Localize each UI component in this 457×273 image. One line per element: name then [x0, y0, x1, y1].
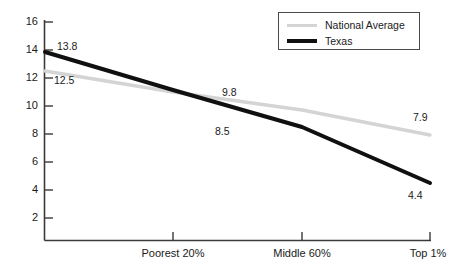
y-tick-label-2: 2: [12, 212, 38, 223]
x-tick-label-top-1: Top 1%: [410, 248, 447, 259]
legend-item-national-average: National Average: [287, 18, 405, 32]
data-label-national-end: 7.9: [413, 112, 428, 123]
data-label-national-start: 12.5: [54, 75, 74, 86]
y-tick-label-12: 12: [12, 72, 38, 83]
series-line-national-average: [45, 71, 430, 135]
legend-label-national-average: National Average: [325, 20, 405, 31]
data-label-texas-end: 4.4: [408, 190, 423, 201]
data-label-texas-start: 13.8: [57, 41, 77, 52]
y-tick-label-8: 8: [12, 128, 38, 139]
y-tick-label-10: 10: [12, 100, 38, 111]
legend-label-texas: Texas: [325, 36, 352, 47]
legend-swatch-national-average-icon: [287, 24, 317, 27]
y-tick-label-4: 4: [12, 184, 38, 195]
data-label-texas-mid: 8.5: [215, 126, 230, 137]
legend-swatch-texas-icon: [287, 39, 317, 43]
y-tick-label-14: 14: [12, 44, 38, 55]
legend-item-texas: Texas: [287, 34, 352, 48]
x-tick-label-poorest-20: Poorest 20%: [142, 248, 205, 259]
series-line-texas: [45, 52, 430, 183]
line-chart: 16 14 12 10 8 6 4 2 Poorest 20% Middle 6…: [0, 0, 457, 273]
x-axis-ticks: [173, 232, 430, 241]
y-tick-label-16: 16: [12, 16, 38, 27]
x-tick-label-middle-60: Middle 60%: [273, 248, 330, 259]
y-tick-label-6: 6: [12, 156, 38, 167]
data-label-national-mid: 9.8: [222, 87, 237, 98]
chart-legend: National Average Texas: [278, 12, 420, 50]
